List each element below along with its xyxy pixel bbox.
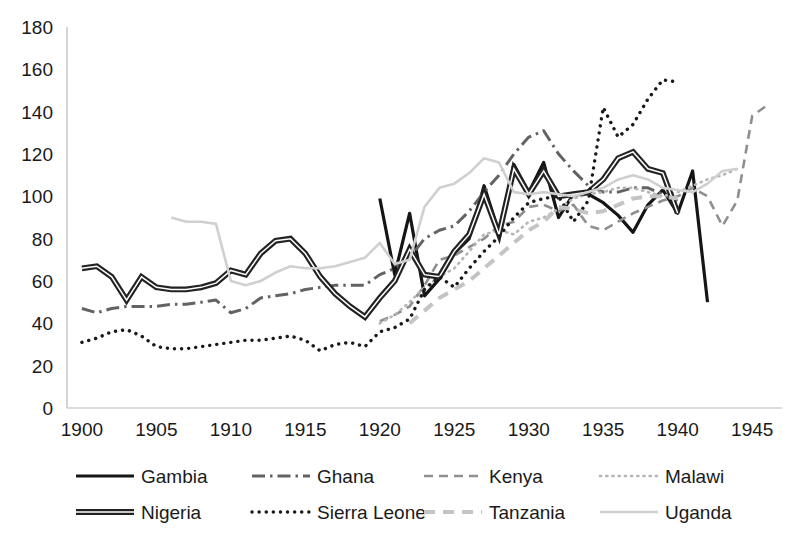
x-axis-tick-label: 1905	[135, 419, 177, 440]
legend-item-nigeria[interactable]: Nigeria	[74, 494, 250, 530]
legend-swatch-malawi	[598, 467, 660, 485]
y-axis-tick-label: 40	[32, 313, 53, 334]
series-line-gambia	[380, 162, 708, 302]
legend-swatch-nigeria	[74, 503, 136, 521]
legend-label: Sierra Leone	[317, 503, 426, 522]
legend-label: Kenya	[489, 467, 543, 486]
legend-swatch-gambia	[74, 467, 136, 485]
x-axis-tick-label: 1925	[433, 419, 475, 440]
legend-item-sierra-leone[interactable]: Sierra Leone	[250, 494, 422, 530]
y-axis-tick-label: 160	[21, 59, 53, 80]
legend-swatch-line	[598, 467, 660, 485]
legend-swatch-line	[74, 503, 136, 521]
legend-row: GambiaGhanaKenyaMalawi	[74, 458, 774, 494]
series-line-nigeria	[82, 152, 678, 317]
y-axis-tick-label: 60	[32, 271, 53, 292]
legend-item-malawi[interactable]: Malawi	[598, 458, 748, 494]
series-line-kenya	[380, 105, 767, 321]
x-axis-tick-label: 1940	[657, 419, 699, 440]
y-axis-tick-label: 0	[42, 398, 53, 419]
data-series-group	[82, 80, 767, 351]
chart-plot-area: 020406080100120140160180 190019051910191…	[0, 0, 798, 537]
series-line-sierra-leone	[82, 80, 678, 351]
x-axis-tick-label: 1935	[582, 419, 624, 440]
legend-swatch-ghana	[250, 467, 312, 485]
x-axis-tick-label: 1900	[61, 419, 103, 440]
series-line-uganda	[171, 158, 737, 285]
chart-legend: GambiaGhanaKenyaMalawiNigeriaSierra Leon…	[74, 458, 774, 530]
legend-swatch-tanzania	[422, 503, 484, 521]
y-axis-tick-label: 140	[21, 102, 53, 123]
legend-swatch-line	[250, 467, 312, 485]
legend-label: Nigeria	[141, 503, 201, 522]
x-axis-tick-label: 1910	[210, 419, 252, 440]
x-axis-tick-label: 1945	[731, 419, 773, 440]
legend-item-tanzania[interactable]: Tanzania	[422, 494, 598, 530]
series-line-ghana	[82, 131, 678, 313]
x-axis-tick-label: 1915	[284, 419, 326, 440]
y-axis-tick-label: 120	[21, 144, 53, 165]
legend-swatch-line	[422, 467, 484, 485]
legend-label: Uganda	[665, 503, 732, 522]
x-axis: 1900190519101915192019251930193519401945	[61, 419, 774, 440]
legend-item-uganda[interactable]: Uganda	[598, 494, 748, 530]
y-axis-tick-label: 180	[21, 17, 53, 38]
legend-swatch-kenya	[422, 467, 484, 485]
legend-label: Malawi	[665, 467, 724, 486]
legend-swatch-uganda	[598, 503, 660, 521]
legend-row: NigeriaSierra LeoneTanzaniaUganda	[74, 494, 774, 530]
legend-item-kenya[interactable]: Kenya	[422, 458, 598, 494]
x-axis-tick-label: 1920	[359, 419, 401, 440]
y-axis-tick-label: 20	[32, 356, 53, 377]
y-axis: 020406080100120140160180	[21, 17, 53, 419]
y-axis-tick-label: 80	[32, 229, 53, 250]
legend-swatch-sierra-leone	[250, 503, 312, 521]
legend-label: Gambia	[141, 467, 208, 486]
legend-label: Ghana	[317, 467, 374, 486]
line-chart: 020406080100120140160180 190019051910191…	[0, 0, 798, 537]
x-axis-tick-label: 1930	[508, 419, 550, 440]
legend-swatch-line	[598, 503, 660, 521]
y-axis-tick-label: 100	[21, 186, 53, 207]
legend-swatch-line	[422, 503, 484, 521]
legend-label: Tanzania	[489, 503, 565, 522]
legend-swatch-line	[74, 467, 136, 485]
legend-swatch-line	[250, 503, 312, 521]
legend-item-gambia[interactable]: Gambia	[74, 458, 250, 494]
legend-item-ghana[interactable]: Ghana	[250, 458, 422, 494]
